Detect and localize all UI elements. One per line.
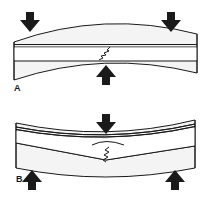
arrow-down-center-b-icon	[96, 114, 116, 134]
panel-b: B	[16, 114, 195, 190]
panel-a-label: A	[14, 83, 21, 93]
arrow-up-center-a-icon	[96, 65, 116, 85]
beam-bending-diagram: A B	[0, 0, 208, 199]
arrow-down-left-a-icon	[20, 12, 40, 32]
panel-b-label: B	[16, 174, 23, 184]
arrow-up-left-b-icon	[22, 170, 42, 190]
panel-a: A	[14, 12, 197, 93]
